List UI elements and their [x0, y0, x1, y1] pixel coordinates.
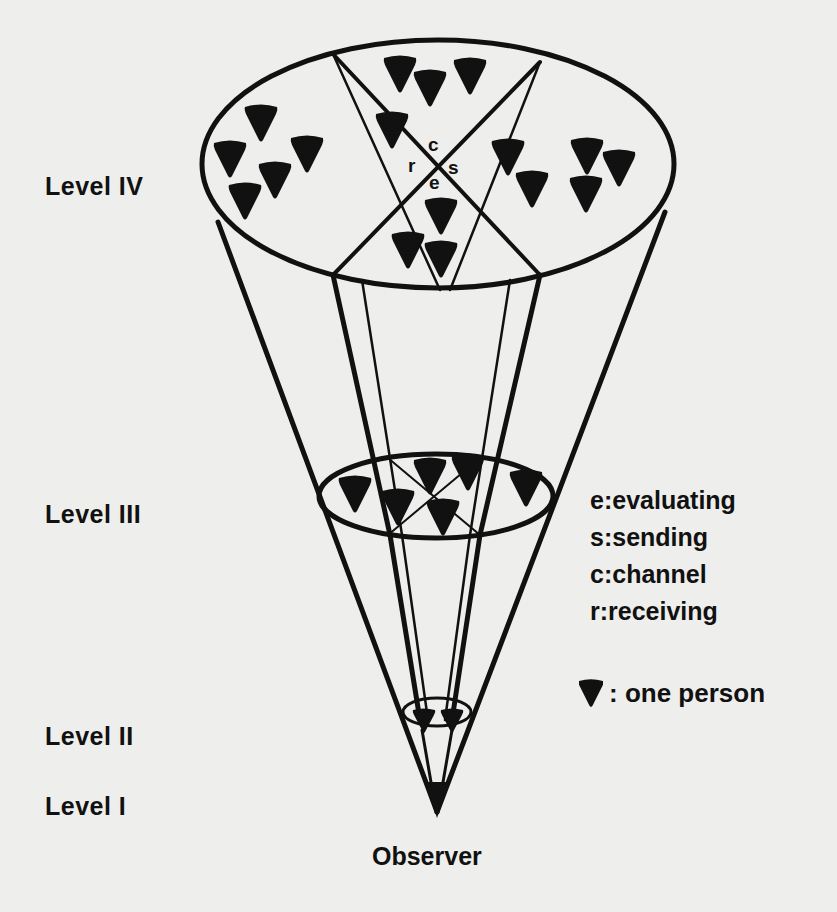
legend-evaluating: e:evaluating: [590, 482, 736, 519]
level-iv-persons: [214, 56, 636, 278]
level-iii-label: Level III: [45, 500, 141, 529]
level-ii-persons: [413, 709, 464, 734]
legend: e:evaluating s:sending c:channel r:recei…: [590, 482, 736, 630]
level-iv-label: Level IV: [45, 172, 144, 201]
channel-letter: c: [428, 134, 439, 156]
evaluating-letter: e: [429, 172, 440, 194]
receiving-letter: r: [408, 155, 415, 177]
level-i-label: Level I: [45, 792, 126, 821]
legend-person-text: : one person: [609, 678, 765, 709]
legend-receiving: r:receiving: [590, 593, 736, 630]
sending-letter: s: [448, 157, 459, 179]
legend-channel: c:channel: [590, 556, 736, 593]
level-ii-label: Level II: [45, 722, 134, 751]
legend-sending: s:sending: [590, 519, 736, 556]
observer-label: Observer: [372, 842, 482, 871]
person-icon: [579, 674, 603, 712]
communication-cone-diagram: [0, 0, 837, 912]
legend-one-person: : one person: [579, 674, 765, 712]
level-i-person: [425, 782, 449, 818]
cone-left-edge: [218, 222, 437, 812]
